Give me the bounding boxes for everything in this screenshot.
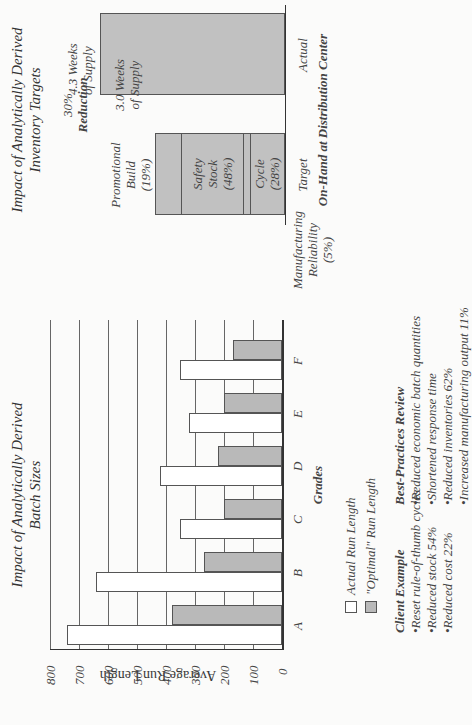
xtick-F: F bbox=[290, 357, 306, 365]
gridline bbox=[137, 320, 138, 650]
bar-optimal-A bbox=[172, 605, 282, 625]
batch-title-line1: Impact of Analytically Derived bbox=[8, 345, 26, 645]
target-weeks-line1: 3.0 Weeks bbox=[112, 45, 127, 125]
segment-cycle: Cycle (28%) bbox=[252, 133, 282, 215]
reduction-label: 30% Reduction bbox=[60, 75, 90, 135]
best-practices-item: •Reduced inventories 62% bbox=[440, 307, 456, 505]
gridline bbox=[50, 320, 51, 650]
legend-label-actual: Actual Run Length bbox=[343, 498, 359, 596]
safety-line3: (48%) bbox=[220, 133, 235, 215]
ytick-700: 700 bbox=[72, 666, 88, 686]
best-practices-item: •Reduced economic batch quantities bbox=[408, 307, 424, 505]
cycle-line1: Cycle bbox=[252, 133, 267, 215]
ytick-600: 600 bbox=[101, 666, 117, 686]
mfg-line1: Manufacturing bbox=[290, 205, 305, 295]
safety-line2: Stock bbox=[205, 133, 220, 215]
xtick-C: C bbox=[290, 515, 306, 524]
bar-actual-B bbox=[96, 572, 282, 592]
xtick-A: A bbox=[290, 622, 306, 630]
bar-optimal-B bbox=[204, 552, 282, 572]
ytick-400: 400 bbox=[159, 666, 175, 686]
target-weeks-line2: of Supply bbox=[127, 45, 142, 125]
bar-optimal-C bbox=[224, 499, 282, 519]
inventory-title-line2: Inventory Targets bbox=[26, 5, 44, 235]
bar-optimal-E bbox=[224, 393, 282, 413]
x-axis-line bbox=[282, 320, 284, 650]
cycle-line2: (28%) bbox=[267, 133, 282, 215]
ytick-500: 500 bbox=[130, 666, 146, 686]
ytick-800: 800 bbox=[43, 666, 59, 686]
segment-safety-stock: Safety Stock (48%) bbox=[190, 133, 235, 215]
xtick-B: B bbox=[290, 569, 306, 577]
promo-line2: Build bbox=[123, 140, 138, 210]
segment-divider bbox=[250, 134, 251, 214]
ytick-300: 300 bbox=[188, 666, 204, 686]
inventory-axis-line bbox=[285, 5, 286, 225]
gridline bbox=[108, 320, 109, 650]
promo-line1: Promotional bbox=[108, 140, 123, 210]
client-example-item: •Reduced cost 22% bbox=[440, 490, 456, 633]
gridline bbox=[79, 320, 80, 650]
ytick-100: 100 bbox=[246, 666, 262, 686]
bar-actual-C bbox=[180, 519, 282, 539]
promotional-build-label: Promotional Build (19%) bbox=[108, 140, 153, 210]
batch-title-line2: Batch Sizes bbox=[26, 345, 44, 645]
legend-label-optimal: "Optimal" Run Length bbox=[363, 478, 379, 595]
inventory-chart-title: Impact of Analytically Derived Inventory… bbox=[8, 5, 44, 235]
best-practices-block: Best-Practices Review •Reduced economic … bbox=[392, 307, 472, 505]
batch-chart-title: Impact of Analytically Derived Batch Siz… bbox=[8, 345, 44, 645]
best-practices-heading: Best-Practices Review bbox=[392, 307, 408, 505]
bar-actual-F bbox=[180, 360, 282, 380]
xtick-E: E bbox=[290, 410, 306, 418]
ytick-200: 200 bbox=[217, 666, 233, 686]
best-practices-item: •Shortened response time bbox=[424, 307, 440, 505]
safety-line1: Safety bbox=[190, 133, 205, 215]
segment-divider bbox=[181, 134, 182, 214]
client-example-block: Client Example •Reset rule-of-thumb cycl… bbox=[392, 490, 456, 633]
promo-line3: (19%) bbox=[138, 140, 153, 210]
bar-actual-D bbox=[160, 466, 282, 486]
xtick-D: D bbox=[290, 462, 306, 471]
y-axis-line bbox=[50, 649, 282, 650]
inventory-x-axis-label: On-Hand at Distribution Center bbox=[315, 5, 330, 235]
inventory-title-line1: Impact of Analytically Derived bbox=[8, 5, 26, 235]
client-example-heading: Client Example bbox=[392, 490, 408, 633]
batch-x-axis-label: Grades bbox=[310, 445, 325, 525]
bar-actual-E bbox=[189, 413, 282, 433]
best-practices-item: •Increased manufacturing output 11% bbox=[456, 307, 472, 505]
bar-optimal-F bbox=[233, 340, 282, 360]
bar-optimal-D bbox=[218, 446, 282, 466]
bar-actual-A bbox=[67, 625, 282, 645]
category-target: Target bbox=[295, 145, 310, 205]
category-actual: Actual bbox=[295, 25, 310, 85]
ytick-0: 0 bbox=[275, 669, 291, 676]
client-example-item: •Reduced stock 54% bbox=[424, 490, 440, 633]
reduction-word: Reduction bbox=[75, 75, 90, 135]
legend-swatch-actual bbox=[345, 601, 357, 613]
legend-swatch-optimal bbox=[365, 601, 377, 613]
segment-divider bbox=[243, 134, 244, 214]
reduction-pct: 30% bbox=[60, 75, 75, 135]
client-example-item: •Reset rule-of-thumb cycles bbox=[408, 490, 424, 633]
target-weeks-label: 3.0 Weeks of Supply bbox=[112, 45, 142, 125]
